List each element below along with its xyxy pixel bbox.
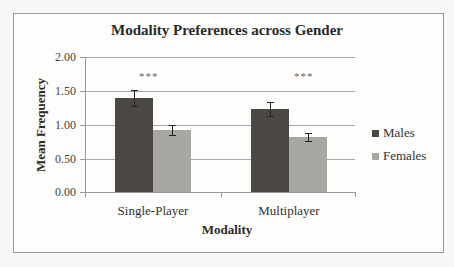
legend-swatch-females [372,153,379,160]
legend-item-males: Males [372,125,415,141]
error-bar [308,133,309,141]
significance-marker-single-player: *** [139,70,159,82]
bar-males-single-player [115,98,153,192]
error-bar [172,125,173,134]
error-bar-cap [169,125,176,126]
x-axis [85,192,355,193]
x-category-multiplayer: Multiplayer [229,203,349,219]
y-tick-mark [80,91,85,92]
bar-females-multiplayer [289,137,327,192]
y-tick-2.00: 2.00 [40,50,76,65]
error-bar-cap [267,116,274,117]
y-tick-mark [80,125,85,126]
error-bar-cap [131,106,138,107]
error-bar-cap [169,135,176,136]
x-category-single-player: Single-Player [93,203,213,219]
error-bar [134,90,135,106]
x-tick-mark [355,192,356,197]
gridline [85,57,355,58]
x-tick-mark [85,192,86,197]
y-tick-1.00: 1.00 [40,118,76,133]
y-tick-1.50: 1.50 [40,84,76,99]
legend-swatch-males [372,130,379,137]
x-tick-mark [221,192,222,197]
legend-item-females: Females [372,148,426,164]
y-tick-0.50: 0.50 [40,152,76,167]
chart-title: Modality Preferences across Gender [0,22,454,39]
significance-marker-multiplayer: *** [294,70,314,82]
y-tick-mark [80,57,85,58]
error-bar-cap [131,90,138,91]
legend-label-males: Males [383,125,415,141]
y-axis [85,57,86,193]
gridline [85,91,355,92]
error-bar-cap [267,102,274,103]
error-bar-cap [305,133,312,134]
x-axis-label: Modality [0,222,454,238]
error-bar-cap [305,141,312,142]
y-tick-mark [80,159,85,160]
bar-females-single-player [153,130,191,192]
legend-label-females: Females [383,148,426,164]
bar-males-multiplayer [251,109,289,192]
error-bar [270,102,271,117]
y-tick-0.00: 0.00 [40,185,76,200]
